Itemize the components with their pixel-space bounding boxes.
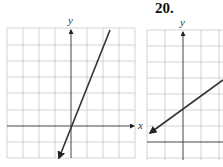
left-x-axis-label: x <box>138 119 143 131</box>
right-y-axis-label: y <box>180 16 185 28</box>
left-y-axis-label: y <box>68 14 73 26</box>
right-plotted-line <box>150 80 223 133</box>
right-grid <box>147 30 223 160</box>
right-graph <box>147 30 223 160</box>
problem-number: 20. <box>155 0 174 17</box>
left-graph <box>7 28 135 158</box>
left-plotted-line <box>59 30 110 158</box>
graphs-canvas <box>0 0 223 167</box>
